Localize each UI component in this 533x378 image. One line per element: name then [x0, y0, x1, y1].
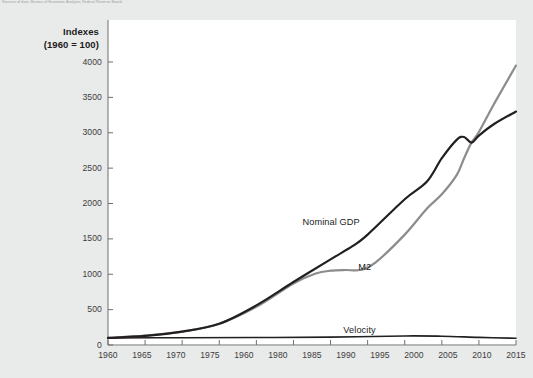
- figure-container: Sources of data: Bureau of Economic Anal…: [0, 0, 533, 378]
- series-label-nominal-gdp: Nominal GDP: [303, 217, 360, 227]
- x-tick-label: 2015: [496, 350, 533, 360]
- y-tick-label: 2500: [60, 163, 102, 173]
- y-tick-label: 3500: [60, 92, 102, 102]
- y-tick-label: 4000: [60, 57, 102, 67]
- series-line-velocity: [108, 336, 516, 338]
- y-tick-label: 1500: [60, 233, 102, 243]
- series-label-m2: M2: [358, 262, 371, 272]
- y-tick-label: 0: [60, 340, 102, 350]
- y-tick-label: 2000: [60, 198, 102, 208]
- series-line-m2: [108, 66, 516, 338]
- series-paths: [108, 66, 516, 339]
- series-label-velocity: Velocity: [343, 325, 375, 335]
- tick-marks: [108, 62, 516, 345]
- y-tick-label: 500: [60, 304, 102, 314]
- y-tick-label: 1000: [60, 269, 102, 279]
- y-tick-label: 3000: [60, 127, 102, 137]
- axis-lines: [108, 20, 516, 345]
